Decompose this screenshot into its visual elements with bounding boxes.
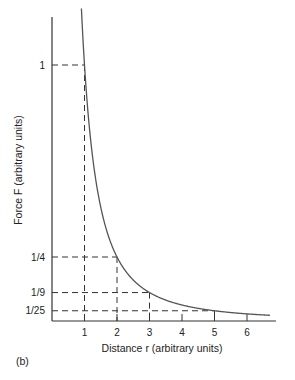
inverse-square-curve	[81, 8, 270, 315]
x-tick-label: 3	[147, 327, 153, 338]
panel-label: (b)	[16, 355, 29, 367]
y-tick-label: 1	[39, 60, 45, 71]
x-tick-label: 5	[212, 327, 218, 338]
x-tick-label: 4	[179, 327, 185, 338]
x-tick-label: 2	[114, 327, 120, 338]
y-tick-label: 1/4	[31, 252, 45, 263]
y-axis-label: Force F (arbitrary units)	[12, 115, 24, 225]
dashed-reference-lines	[52, 65, 215, 321]
y-tick-label: 1/9	[31, 287, 45, 298]
x-axis-ticks: 123456	[82, 314, 251, 338]
y-axis-ticks: 11/41/91/25	[26, 60, 46, 317]
y-tick-label: 1/25	[26, 305, 46, 316]
x-tick-label: 1	[82, 327, 88, 338]
force-distance-chart: 123456 11/41/91/25 Distance r (arbitrary…	[0, 0, 295, 380]
x-tick-label: 6	[244, 327, 250, 338]
axes	[52, 17, 276, 321]
x-axis-label: Distance r (arbitrary units)	[102, 342, 223, 354]
